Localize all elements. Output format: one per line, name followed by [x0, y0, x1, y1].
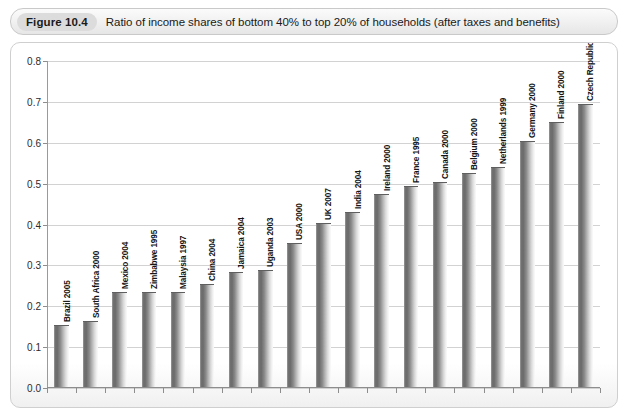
bar-category-label: Germany 2000 [528, 83, 537, 138]
bar: Germany 2000 [520, 141, 535, 387]
bar-category-label: UK 2007 [324, 188, 333, 220]
bar: Brazil 2005 [54, 325, 69, 387]
x-tick-mark [163, 388, 164, 393]
bar: Malaysia 1997 [171, 292, 186, 387]
y-tick-label: 0.2 [27, 301, 41, 312]
bar: South Africa 2000 [83, 321, 98, 387]
bar-category-label: Finland 2000 [557, 71, 566, 119]
bar: Uganda 2003 [258, 270, 273, 387]
y-tick-label: 0.4 [27, 219, 41, 230]
x-tick-mark [367, 388, 368, 393]
x-tick-mark [193, 388, 194, 393]
bar: Finland 2000 [549, 122, 564, 387]
x-tick-mark [338, 388, 339, 393]
x-tick-mark [76, 388, 77, 393]
x-tick-mark [542, 388, 543, 393]
bar: Mexico 2004 [112, 292, 127, 387]
bar-category-label: Mexico 2004 [121, 242, 130, 289]
x-tick-mark [251, 388, 252, 393]
x-tick-mark [396, 388, 397, 393]
bar-category-label: Uganda 2003 [266, 217, 275, 266]
x-tick-mark [222, 388, 223, 393]
x-tick-mark [47, 388, 48, 393]
figure-number-badge: Figure 10.4 [17, 13, 97, 31]
x-tick-mark [454, 388, 455, 393]
bar: Ireland 2000 [374, 194, 389, 387]
bar: India 2004 [345, 212, 360, 387]
figure-panel: Figure 10.4 Ratio of income shares of bo… [0, 0, 628, 417]
bar-category-label: Netherlands 1999 [499, 98, 508, 164]
bar: UK 2007 [316, 223, 331, 388]
y-tick-label: 0.0 [27, 383, 41, 394]
bar-category-label: Jamaica 2004 [237, 217, 246, 269]
x-tick-mark [513, 388, 514, 393]
bar: France 1995 [404, 186, 419, 387]
y-axis-line [47, 61, 48, 388]
figure-caption: Ratio of income shares of bottom 40% to … [106, 16, 560, 28]
bar-category-label: Ireland 2000 [383, 145, 392, 191]
bar-category-label: Malaysia 1997 [179, 236, 188, 289]
bar-category-label: Canada 2000 [441, 130, 450, 179]
gridline [47, 143, 600, 144]
bar-category-label: Czech Republic 1996 [586, 42, 595, 101]
y-tick-label: 0.3 [27, 260, 41, 271]
bar-category-label: India 2004 [354, 171, 363, 210]
bar-category-label: Zimbabwe 1995 [150, 230, 159, 289]
bar: Jamaica 2004 [229, 272, 244, 387]
x-tick-mark [105, 388, 106, 393]
bar-category-label: France 1995 [412, 136, 421, 182]
gridline [47, 102, 600, 103]
gridline [47, 61, 600, 62]
y-tick-label: 0.8 [27, 56, 41, 67]
y-tick-label: 0.6 [27, 137, 41, 148]
bar: Czech Republic 1996 [578, 104, 593, 387]
x-axis-line [47, 387, 600, 388]
gridline [47, 388, 600, 389]
bar-category-label: USA 2000 [295, 203, 304, 240]
y-tick-label: 0.7 [27, 96, 41, 107]
bar: Zimbabwe 1995 [142, 292, 157, 387]
y-tick-label: 0.5 [27, 178, 41, 189]
x-tick-mark [600, 388, 601, 393]
plot-area: 0.00.10.20.30.40.50.60.70.8 Brazil 2005S… [47, 61, 600, 388]
bar-category-label: Brazil 2005 [63, 280, 72, 322]
bar: China 2004 [200, 284, 215, 387]
bar: Belgium 2000 [462, 173, 477, 387]
bar: USA 2000 [287, 243, 302, 387]
figure-title-bar: Figure 10.4 Ratio of income shares of bo… [10, 8, 618, 35]
x-tick-mark [571, 388, 572, 393]
bar: Canada 2000 [433, 182, 448, 387]
x-tick-mark [309, 388, 310, 393]
x-tick-mark [280, 388, 281, 393]
x-tick-mark [134, 388, 135, 393]
x-tick-mark [425, 388, 426, 393]
x-tick-mark [484, 388, 485, 393]
bar-category-label: South Africa 2000 [92, 250, 101, 317]
gridline [47, 184, 600, 185]
bar-category-label: Belgium 2000 [470, 119, 479, 171]
bar-category-label: China 2004 [208, 239, 217, 281]
bar: Netherlands 1999 [491, 167, 506, 387]
chart-frame: 0.00.10.20.30.40.50.60.70.8 Brazil 2005S… [10, 42, 618, 408]
y-tick-label: 0.1 [27, 342, 41, 353]
